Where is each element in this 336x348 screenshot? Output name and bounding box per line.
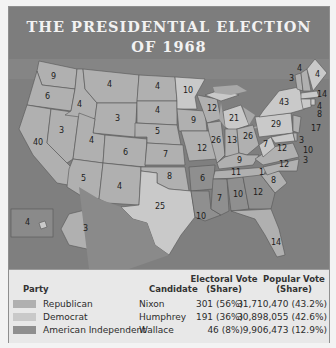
electoral-vote: 301 (56%) — [196, 298, 243, 311]
ev-KY: 9 — [237, 156, 242, 165]
ev-FL: 14 — [271, 238, 281, 247]
state-CT — [301, 99, 311, 109]
ev-GA: 12 — [253, 188, 263, 197]
ev-VA: 12 — [277, 144, 287, 153]
header-electoral: Electoral Vote (Share) — [189, 274, 259, 294]
ev-SD: 4 — [155, 106, 160, 115]
ev-CT: 8 — [317, 110, 322, 119]
header-party: Party — [23, 284, 49, 294]
state-RI — [311, 99, 315, 105]
ev-UT: 4 — [89, 136, 94, 145]
electoral-vote: 46 (8%) — [207, 324, 243, 337]
header-popular: Popular Vote (Share) — [259, 274, 329, 294]
ev-MN: 10 — [183, 86, 193, 95]
ev-NH: 4 — [297, 64, 302, 73]
state-FL — [231, 209, 285, 257]
ev-VT: 3 — [289, 74, 294, 83]
ev-WV: 7 — [263, 140, 268, 149]
ev-AR: 6 — [200, 174, 205, 183]
electoral-vote: 191 (36%) — [196, 311, 243, 324]
ev-CO: 6 — [123, 148, 128, 157]
ev-CA: 40 — [33, 138, 43, 147]
popular-vote: 9,906,473 (12.9%) — [243, 324, 327, 337]
ev-KS: 7 — [163, 150, 168, 159]
ev-NM: 4 — [117, 182, 122, 191]
ev-MS: 7 — [217, 194, 222, 203]
ev-NC-wallace: 1 — [259, 168, 264, 177]
ev-IA: 9 — [191, 116, 196, 125]
election-map-figure: THE PRESIDENTIAL ELECTION OF 1968 — [8, 6, 330, 343]
header-popular-line2: (Share) — [259, 284, 329, 294]
ev-ID: 4 — [77, 100, 82, 109]
ev-MI: 21 — [229, 114, 239, 123]
ev-NJ: 17 — [311, 124, 321, 133]
ev-MT: 4 — [107, 80, 112, 89]
ev-MA: 14 — [317, 90, 327, 99]
american-independent-swatch — [13, 326, 36, 334]
ev-TX: 25 — [155, 202, 165, 211]
ev-MD: 10 — [303, 146, 313, 155]
ev-WA: 9 — [51, 72, 56, 81]
party-name: American Independent — [43, 324, 146, 337]
ev-SC: 8 — [271, 176, 276, 185]
ev-NE: 5 — [155, 127, 160, 136]
title-line-1: THE PRESIDENTIAL ELECTION — [9, 7, 329, 37]
ev-AL: 10 — [233, 190, 243, 199]
us-map: 9 6 40 3 4 4 3 4 5 6 4 4 4 5 7 8 25 10 9… — [9, 59, 329, 269]
title-bar: THE PRESIDENTIAL ELECTION OF 1968 — [9, 7, 329, 59]
ev-ME: 4 — [315, 70, 320, 79]
ev-OR: 6 — [45, 92, 50, 101]
candidate-name: Wallace — [139, 324, 174, 337]
hawaii-inset — [11, 209, 53, 237]
legend-table: Party Candidate Electoral Vote (Share) P… — [9, 269, 329, 343]
header-electoral-line1: Electoral Vote — [189, 274, 259, 284]
ev-NC: 12 — [279, 160, 289, 169]
party-name: Democrat — [43, 311, 87, 324]
party-name: Republican — [43, 298, 93, 311]
ev-OK: 8 — [167, 172, 172, 181]
ev-NY: 43 — [279, 98, 289, 107]
ev-DC: 3 — [303, 156, 308, 165]
ev-LA: 10 — [196, 212, 206, 221]
ev-NV: 3 — [59, 126, 64, 135]
candidate-name: Nixon — [139, 298, 165, 311]
ev-TN: 11 — [231, 168, 241, 177]
ev-PA: 29 — [271, 120, 281, 129]
ev-ND: 4 — [155, 82, 160, 91]
popular-vote: 30,898,055 (42.6%) — [237, 311, 327, 324]
ev-HI: 4 — [25, 218, 30, 227]
ev-AK: 3 — [83, 224, 88, 233]
popular-vote: 31,710,470 (43.2%) — [237, 298, 327, 311]
legend-row-republican: Republican Nixon 301 (56%) 31,710,470 (4… — [9, 298, 329, 311]
democrat-swatch — [13, 313, 36, 321]
ev-MO: 12 — [197, 144, 207, 153]
ev-IN: 13 — [227, 136, 237, 145]
legend-row-democrat: Democrat Humphrey 191 (36%) 30,898,055 (… — [9, 311, 329, 324]
ev-WI: 12 — [207, 104, 217, 113]
ev-IL: 26 — [211, 136, 221, 145]
ev-WY: 3 — [115, 114, 120, 123]
state-NJ — [293, 115, 301, 133]
header-electoral-line2: (Share) — [189, 284, 259, 294]
legend-row-american-independent: American Independent Wallace 46 (8%) 9,9… — [9, 324, 329, 337]
ev-OH: 26 — [243, 132, 253, 141]
title-line-2: OF 1968 — [9, 37, 329, 57]
header-popular-line1: Popular Vote — [259, 274, 329, 284]
candidate-name: Humphrey — [139, 311, 186, 324]
republican-swatch — [13, 300, 36, 308]
ev-DE: 3 — [299, 136, 304, 145]
ev-AZ: 5 — [81, 174, 86, 183]
